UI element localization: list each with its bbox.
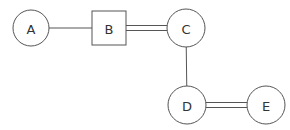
edge-line <box>186 47 187 86</box>
edge-b-c <box>126 26 167 31</box>
node-e: E <box>247 86 285 124</box>
edge-d-e <box>206 103 247 108</box>
node-label: A <box>27 22 36 37</box>
node-label: C <box>181 22 190 37</box>
node-a: A <box>13 10 49 46</box>
node-label: B <box>105 22 114 37</box>
node-c: C <box>167 9 205 47</box>
node-b: B <box>92 11 126 45</box>
edges-group <box>49 26 247 108</box>
edge-c-d <box>186 47 187 86</box>
node-label: E <box>262 99 270 114</box>
node-d: D <box>168 86 206 124</box>
graph-diagram: ABCDE <box>0 0 290 130</box>
nodes-group: ABCDE <box>13 9 285 124</box>
node-label: D <box>182 99 192 114</box>
